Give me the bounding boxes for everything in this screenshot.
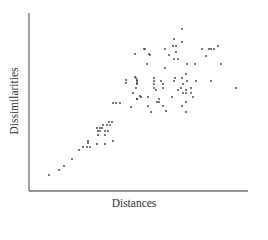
data-point [205,55,207,57]
data-point [177,58,179,60]
y-axis-label: Dissimilarities [8,67,20,134]
data-point [156,101,158,103]
data-point [86,146,88,148]
data-point [144,48,146,50]
data-point [104,130,106,132]
data-point [119,102,121,104]
data-point [186,80,188,82]
data-point [165,110,167,112]
data-point [213,48,215,50]
data-point [174,77,176,79]
data-point [87,140,89,142]
data-point [208,48,210,50]
data-point [150,111,152,113]
data-point [136,83,138,85]
data-point [147,105,149,107]
data-point [99,127,101,129]
data-point [201,48,203,50]
data-point [185,73,187,75]
data-point [177,89,179,91]
data-point [96,143,98,145]
data-point [104,134,106,136]
data-point [132,92,134,94]
data-point [125,79,127,81]
data-point [134,53,136,55]
data-point [175,45,177,47]
data-point [164,48,166,50]
data-point [135,77,137,79]
data-point [181,28,183,30]
data-point [185,89,187,91]
data-point [182,83,184,85]
data-point [180,87,182,89]
data-point [107,130,109,132]
data-point [135,87,137,89]
data-point [162,87,164,89]
data-point [115,102,117,104]
data-point [89,146,91,148]
data-point [192,96,194,98]
data-point [108,121,110,123]
data-point [97,134,99,136]
data-point [136,98,138,100]
data-point [63,165,65,167]
data-point [153,83,155,85]
data-point [210,80,212,82]
data-point [172,45,174,47]
data-point [173,38,175,40]
data-point [158,101,160,103]
data-point [217,45,219,47]
data-point [168,54,170,56]
data-point [171,96,173,98]
data-point [194,63,196,65]
data-point [96,127,98,129]
data-point [181,77,183,79]
data-point [111,121,113,123]
data-point [109,124,111,126]
data-point [140,96,142,98]
data-point [125,82,127,84]
data-point [181,105,183,107]
data-point [130,106,132,108]
data-point [160,80,162,82]
data-point [71,158,73,160]
data-point [112,140,114,142]
data-point [153,87,155,89]
data-point [153,77,155,79]
data-point [185,92,187,94]
data-point [181,41,183,43]
data-points [48,28,237,176]
data-point [99,130,101,132]
data-point [112,102,114,104]
data-point [173,80,175,82]
data-point [101,127,103,129]
data-point [175,51,177,53]
data-point [162,105,164,107]
data-point [82,146,84,148]
data-point [190,87,192,89]
data-point [58,169,60,171]
data-point [173,58,175,60]
data-point [210,48,212,50]
data-point [104,143,106,145]
data-point [235,87,237,89]
data-point [153,80,155,82]
data-point [146,63,148,65]
data-point [185,101,187,103]
x-axis-label: Distances [0,197,268,209]
data-point [78,149,80,151]
data-point [164,67,166,69]
data-point [106,124,108,126]
data-point [195,80,197,82]
data-point [162,83,164,85]
data-point [102,124,104,126]
data-point [97,130,99,132]
data-point [220,63,222,65]
data-point [158,98,160,100]
data-point [185,111,187,113]
data-point [190,92,192,94]
data-point [186,63,188,65]
data-point [155,89,157,91]
data-point [182,92,184,94]
data-point [147,96,149,98]
